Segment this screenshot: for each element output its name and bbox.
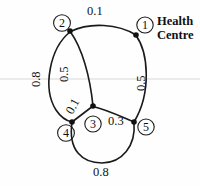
node-dot-4[interactable] <box>69 119 75 125</box>
node-label-4[interactable]: 4 <box>63 127 69 139</box>
edge-weight-2-1: 0.1 <box>87 5 103 18</box>
node-label-1[interactable]: 1 <box>142 19 148 31</box>
edge-weight-2-3: 0.5 <box>58 66 71 82</box>
node-label-3[interactable]: 3 <box>90 118 96 130</box>
edge-weight-2-4: 0.8 <box>30 71 43 87</box>
health-centre-line-2: Centre <box>157 28 194 42</box>
node-dot-1[interactable] <box>133 32 139 38</box>
edge-2-1 <box>71 25 137 35</box>
node-label-5[interactable]: 5 <box>143 121 149 133</box>
node-dot-3[interactable] <box>90 103 96 109</box>
edge-4-5 <box>71 123 134 164</box>
edge-weight-4-5: 0.8 <box>93 166 109 179</box>
health-centre-annotation: Health Centre <box>157 14 194 43</box>
health-centre-line-1: Health <box>157 14 194 28</box>
edge-2-3 <box>71 32 94 106</box>
node-dot-5[interactable] <box>131 119 137 125</box>
edge-weight-1-5: 0.5 <box>135 75 148 91</box>
edge-weight-3-5: 0.3 <box>108 115 124 128</box>
diagram-canvas: 1 2 3 4 5 0.1 0.8 0.5 0.5 0.1 0.3 0.8 He… <box>0 0 200 186</box>
node-label-2[interactable]: 2 <box>59 17 65 29</box>
